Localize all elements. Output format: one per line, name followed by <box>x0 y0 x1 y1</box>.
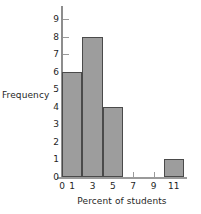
y-tick-mark <box>63 54 69 55</box>
x-axis-title: Percent of students <box>52 196 192 207</box>
y-tick-mark <box>63 177 69 178</box>
y-tick-mark <box>63 37 69 38</box>
y-tick-label: 1 <box>46 155 59 164</box>
histogram-bar <box>164 159 184 177</box>
y-axis-title: Frequency <box>2 90 48 101</box>
x-tick-mark <box>154 172 155 177</box>
histogram-bar <box>62 72 82 177</box>
y-tick-label: 9 <box>46 15 59 24</box>
y-tick-label: 6 <box>46 68 59 77</box>
y-tick-label: 8 <box>46 33 59 42</box>
x-tick-mark <box>133 172 134 177</box>
plot-area: 0123456789 01357911 <box>0 0 201 214</box>
y-tick-label: 3 <box>46 120 59 129</box>
x-tick-label: 9 <box>146 181 162 191</box>
histogram-bar <box>82 37 102 177</box>
x-tick-label: 5 <box>105 181 121 191</box>
x-axis-line <box>57 177 187 179</box>
x-tick-label: 3 <box>85 181 101 191</box>
x-tick-label: 1 <box>64 181 80 191</box>
x-tick-label: 7 <box>125 181 141 191</box>
histogram-bar <box>103 107 123 177</box>
y-tick-label: 4 <box>46 103 59 112</box>
y-tick-label: 7 <box>46 50 59 59</box>
histogram-chart: 0123456789 01357911 Frequency Percent of… <box>0 0 201 214</box>
x-tick-label: 11 <box>166 181 182 191</box>
y-tick-label: 2 <box>46 138 59 147</box>
y-tick-mark <box>63 19 69 20</box>
